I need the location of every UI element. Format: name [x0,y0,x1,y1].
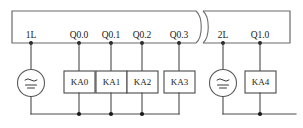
junction-node-ka4 [258,112,262,116]
relay-label-ka4: KA4 [252,77,270,87]
terminal-label-2L: 2L [218,30,229,40]
terminal-label-q02: Q0.2 [133,30,152,40]
terminal-drop-wires [31,43,260,71]
relay-ka4: KA4 [245,71,276,114]
return-rail-group-1 [31,112,179,116]
terminal-label-q03: Q0.3 [170,30,189,40]
terminal-label-q00: Q0.0 [70,30,89,40]
ac-dc-source-symbol-1 [18,70,45,97]
plc-output-wiring-diagram: 1L Q0.0 Q0.1 Q0.2 Q0.3 2L Q1.0 [0,0,303,128]
junction-node-ka0 [77,112,81,116]
relay-ka3: KA3 [164,71,195,114]
schematic-canvas: 1L Q0.0 Q0.1 Q0.2 Q0.3 2L Q1.0 [0,0,303,128]
ac-dc-source-symbol-2 [210,70,237,97]
relay-label-ka3: KA3 [171,77,189,87]
power-source-1 [18,70,45,115]
enclosure-break-icon [196,11,208,43]
terminal-label-q01: Q0.1 [102,30,121,40]
relay-ka0: KA0 [64,71,95,114]
junction-node-ka2 [140,112,144,116]
relay-ka2: KA2 [127,71,158,114]
relay-label-ka2: KA2 [134,77,152,87]
relay-label-ka0: KA0 [71,77,89,87]
relay-label-ka1: KA1 [103,77,121,87]
plc-enclosure-right [203,11,290,43]
power-source-2 [210,70,237,115]
junction-node-ka1 [109,112,113,116]
terminal-label-1L: 1L [26,30,37,40]
return-rail-group-2 [223,112,296,116]
terminal-label-q10: Q1.0 [251,30,270,40]
relay-ka1: KA1 [96,71,127,114]
